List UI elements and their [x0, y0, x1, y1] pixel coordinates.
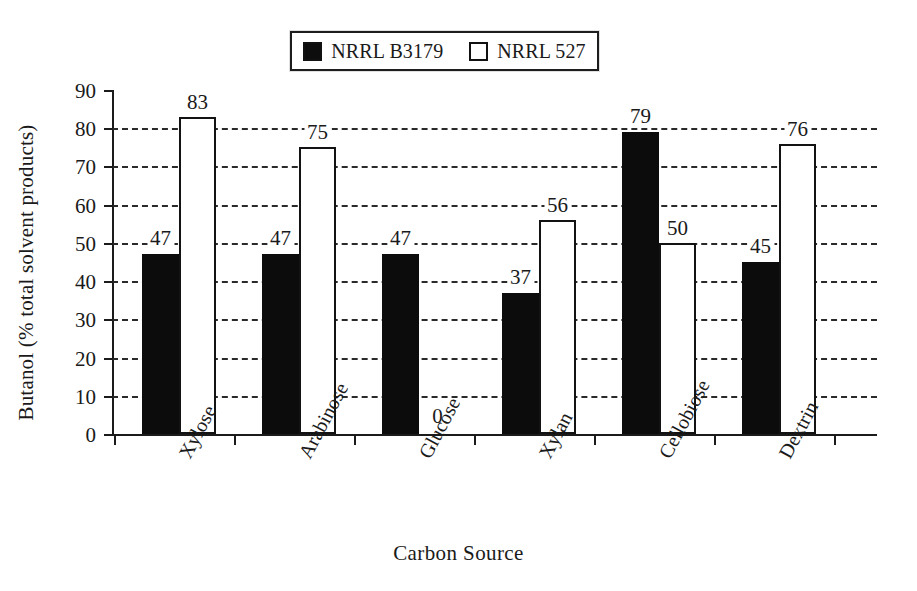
- y-axis-line: [112, 90, 114, 435]
- x-axis-tick: [714, 434, 716, 445]
- gridline: [112, 166, 877, 168]
- bar-value-label: 47: [147, 228, 174, 249]
- legend-label-series-1: NRRL B3179: [331, 41, 443, 61]
- legend-label-series-2: NRRL 527: [497, 41, 585, 61]
- bar-value-label: 50: [664, 218, 691, 239]
- gridline: [112, 128, 877, 130]
- bar: 37: [502, 293, 539, 434]
- y-axis-tick-label: 50: [75, 234, 96, 255]
- legend-entry-nrrl-527: NRRL 527: [469, 41, 585, 61]
- y-axis-tick-label: 40: [75, 272, 96, 293]
- x-axis-tick: [474, 434, 476, 445]
- bar: 83: [179, 117, 216, 434]
- bar-value-label: 47: [387, 228, 414, 249]
- bar: 76: [779, 144, 816, 434]
- bar-value-label: 75: [304, 122, 331, 143]
- bar: 79: [622, 132, 659, 434]
- y-axis-tick-label: 90: [75, 81, 96, 102]
- bar-value-label: 37: [507, 267, 534, 288]
- bar-value-label: 76: [784, 119, 811, 140]
- y-axis-tick: 80: [104, 128, 113, 130]
- bar-value-label: 47: [267, 228, 294, 249]
- bar: 45: [742, 262, 779, 434]
- y-axis-tick: 40: [104, 281, 113, 283]
- hollow-square-icon: [469, 42, 488, 61]
- y-axis-tick-label: 80: [75, 119, 96, 140]
- bar-value-label: 83: [184, 92, 211, 113]
- x-axis-tick: [114, 434, 116, 445]
- y-axis-tick: 90: [104, 90, 113, 92]
- bar: 47: [142, 254, 179, 434]
- y-axis-tick: 30: [104, 319, 113, 321]
- y-axis-tick: 0: [104, 434, 113, 436]
- legend-entry-nrrl-b3179: NRRL B3179: [303, 41, 443, 61]
- y-axis-tick: 50: [104, 243, 113, 245]
- y-axis-tick-label: 70: [75, 158, 96, 179]
- y-axis-tick: 70: [104, 166, 113, 168]
- y-axis-title: Butanol (% total solvent products): [14, 83, 39, 463]
- bar: 47: [382, 254, 419, 434]
- plot-area: 0102030405060708090 47834775470375679504…: [112, 90, 877, 434]
- filled-square-icon: [303, 42, 322, 61]
- gridline: [112, 205, 877, 207]
- y-axis-tick-label: 10: [75, 387, 96, 408]
- x-axis-tick: [594, 434, 596, 445]
- y-axis-tick: 10: [104, 396, 113, 398]
- x-axis-tick: [354, 434, 356, 445]
- bar-chart-figure: NRRL B3179 NRRL 527 0102030405060708090 …: [0, 0, 917, 591]
- y-axis-tick-label: 20: [75, 349, 96, 370]
- y-axis-tick-label: 0: [86, 425, 97, 446]
- x-axis-title: Carbon Source: [0, 541, 917, 566]
- bar-value-label: 56: [544, 195, 571, 216]
- bar-value-label: 45: [747, 236, 774, 257]
- y-axis-tick: 60: [104, 205, 113, 207]
- bar: 47: [262, 254, 299, 434]
- bar: 56: [539, 220, 576, 434]
- bar-value-label: 79: [627, 106, 654, 127]
- x-axis-category-label: Glucose: [415, 394, 463, 461]
- chart-legend: NRRL B3179 NRRL 527: [290, 31, 599, 71]
- x-axis-tick: [234, 434, 236, 445]
- y-axis-tick: 20: [104, 358, 113, 360]
- x-axis-tick: [834, 434, 836, 445]
- y-axis-tick-label: 60: [75, 196, 96, 217]
- x-axis-line: [112, 434, 877, 436]
- y-axis-tick-label: 30: [75, 310, 96, 331]
